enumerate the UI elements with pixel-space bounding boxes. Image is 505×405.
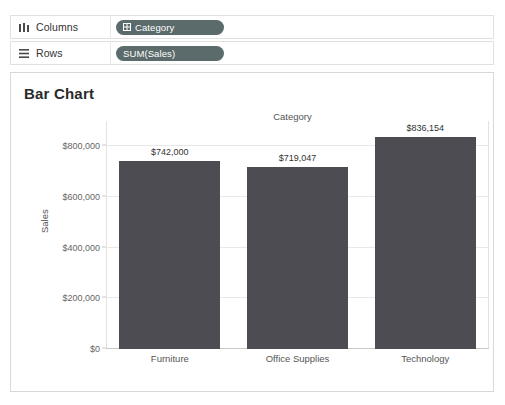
y-tick-label: $200,000 (62, 293, 100, 303)
bar-furniture[interactable] (119, 161, 220, 349)
bar-value-label: $742,000 (151, 147, 189, 157)
y-tick-label: $400,000 (62, 243, 100, 253)
columns-shelf-label: Columns (36, 21, 78, 33)
bar-slot: $742,000 (106, 121, 234, 349)
columns-shelf[interactable]: Columns Category (10, 15, 494, 39)
bar-slot: $836,154 (361, 121, 489, 349)
bar-value-label: $836,154 (406, 123, 444, 133)
y-tick-label: $800,000 (62, 141, 100, 151)
bar-slot: $719,047 (234, 121, 362, 349)
pill-sum-sales-label: SUM(Sales) (123, 48, 175, 59)
x-axis-label: Office Supplies (234, 353, 362, 364)
columns-shelf-label-box: Columns (11, 16, 111, 38)
columns-icon (19, 22, 29, 32)
bar-technology[interactable] (375, 137, 476, 349)
pill-sum-sales[interactable]: SUM(Sales) (116, 46, 224, 61)
plot-area: $0$200,000$400,000$600,000$800,000 $742,… (106, 121, 489, 349)
chart-card: Bar Chart Category Sales $0$200,000$400,… (10, 72, 494, 392)
y-tick-label: $0 (90, 344, 100, 354)
bar-office-supplies[interactable] (247, 167, 348, 349)
rows-shelf[interactable]: Rows SUM(Sales) (10, 41, 494, 65)
x-axis-label: Technology (361, 353, 489, 364)
rows-icon (19, 48, 29, 58)
y-axis-title: Sales (39, 209, 50, 233)
bar-value-label: $719,047 (279, 153, 317, 163)
x-axis-labels: FurnitureOffice SuppliesTechnology (106, 353, 489, 364)
columns-pill-zone[interactable]: Category (111, 16, 493, 38)
pill-category[interactable]: Category (116, 20, 224, 35)
page-title: Bar Chart (24, 85, 94, 102)
x-axis-label: Furniture (106, 353, 234, 364)
bar-series: $742,000$719,047$836,154 (106, 121, 489, 349)
rows-pill-zone[interactable]: SUM(Sales) (111, 42, 493, 64)
dimension-grid-icon (123, 23, 131, 31)
pill-category-label: Category (135, 22, 174, 33)
rows-shelf-label: Rows (36, 47, 63, 59)
tableau-worksheet: Columns Category (0, 0, 505, 405)
rows-shelf-label-box: Rows (11, 42, 111, 64)
y-tick-label: $600,000 (62, 192, 100, 202)
